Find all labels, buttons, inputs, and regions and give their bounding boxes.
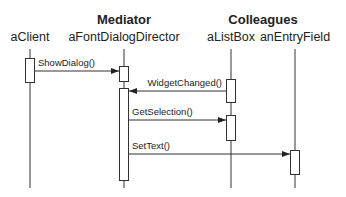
sequence-diagram: Mediator Colleagues aClient aFontDialogD… <box>0 0 346 197</box>
activation-anentryfield <box>291 151 300 175</box>
message-label-widgetchanged: WidgetChanged() <box>148 77 222 88</box>
activation-alistbox-2 <box>227 116 236 141</box>
participant-anentryfield: anEntryField <box>260 30 330 44</box>
activation-alistbox-1 <box>227 80 236 103</box>
activation-director-1 <box>120 67 129 82</box>
group-title-colleagues: Colleagues <box>228 12 297 27</box>
participant-aclient: aClient <box>11 30 50 44</box>
participant-afontdialogdirector: aFontDialogDirector <box>68 30 179 44</box>
message-label-settext: SetText() <box>132 140 170 151</box>
message-label-showdialog: ShowDialog() <box>38 57 95 68</box>
message-label-getselection: GetSelection() <box>132 106 193 117</box>
activation-director-2 <box>120 89 129 181</box>
participant-alistbox: aListBox <box>207 30 256 44</box>
activation-aclient <box>26 59 35 83</box>
group-title-mediator: Mediator <box>97 12 151 27</box>
